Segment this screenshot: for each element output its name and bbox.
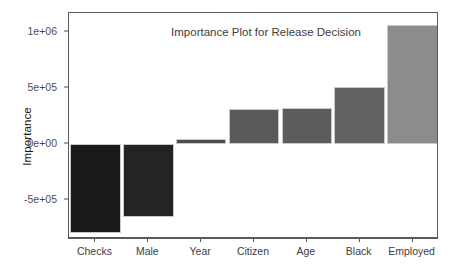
y-axis-ticks: 1e+065e+050e+00-5e+05 [0,0,64,273]
x-tick-label-black: Black [346,245,372,257]
x-tick-mark [200,238,201,242]
x-tick-label-age: Age [297,245,316,257]
x-tick-mark [253,238,254,242]
x-tick-label-checks: Checks [77,245,112,257]
x-tick-label-year: Year [190,245,211,257]
bar-black [334,87,384,144]
bar-citizen [229,109,279,144]
x-tick-mark [94,238,95,242]
x-tick-mark [147,238,148,242]
plot-area [69,13,437,237]
y-tick-label: 0e+00 [28,137,58,149]
x-tick-mark [359,238,360,242]
bar-age [282,108,332,144]
x-tick-label-citizen: Citizen [237,245,269,257]
x-tick-mark [306,238,307,242]
bar-checks [70,144,120,233]
importance-bar-chart: Importance 1e+065e+050e+00-5e+05 Importa… [0,0,453,273]
bar-male [123,144,173,217]
y-tick-label: -5e+05 [24,193,57,205]
x-tick-label-employed: Employed [388,245,435,257]
x-tick-label-male: Male [136,245,159,257]
y-tick-label: 5e+05 [28,81,58,93]
y-tick-label: 1e+06 [28,25,58,37]
bar-employed [387,25,437,144]
x-tick-mark [412,238,413,242]
bar-year [176,139,226,144]
plot-panel: Importance Plot for Release Decision [68,12,438,238]
